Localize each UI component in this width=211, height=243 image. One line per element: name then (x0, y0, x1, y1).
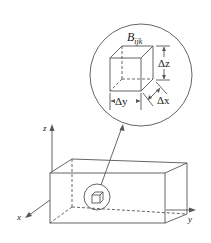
y-axis-label: y (187, 214, 192, 224)
z-arrow-icon (50, 124, 55, 131)
small-circle (84, 184, 110, 210)
dx-label: Δx (157, 94, 170, 106)
pointer-line (101, 127, 122, 185)
y-arrow-icon (189, 208, 196, 213)
x-arrow-icon (25, 212, 32, 218)
x-axis (28, 200, 50, 216)
detail-label: Bijk (127, 30, 143, 46)
pointer-arrow-icon (120, 124, 125, 131)
dz-label: Δz (158, 57, 170, 69)
z-axis-label: z (42, 123, 47, 133)
dy-label: Δy (115, 95, 128, 107)
volume-box-front (50, 173, 165, 223)
x-axis-label: x (16, 212, 21, 222)
diagram-canvas: Bijk Δz Δy Δx z x y (0, 0, 211, 243)
